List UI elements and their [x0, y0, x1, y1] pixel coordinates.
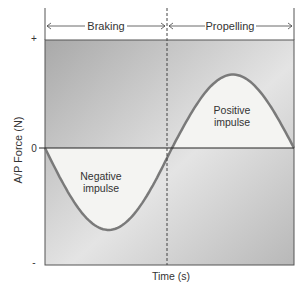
- y-tick-plus: +: [31, 33, 37, 44]
- annotation-positive-line1: Positive: [214, 104, 251, 116]
- annotation-negative-line2: impulse: [83, 182, 119, 194]
- phase-label-propelling: Propelling: [206, 20, 255, 32]
- y-tick-minus: -: [32, 257, 35, 268]
- annotation-negative-line1: Negative: [80, 170, 122, 182]
- y-tick-zero: 0: [31, 143, 37, 154]
- y-axis-label: A/P Force (N): [12, 116, 24, 183]
- force-time-diagram: Braking Propelling + 0 - A/P Force (N) T…: [0, 0, 308, 289]
- annotation-positive-line2: impulse: [214, 116, 250, 128]
- x-axis-label: Time (s): [152, 270, 190, 282]
- phase-label-braking: Braking: [87, 20, 124, 32]
